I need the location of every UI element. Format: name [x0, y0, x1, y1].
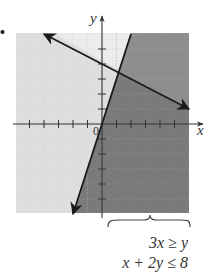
brace [108, 215, 190, 227]
inequality-2: x + 2y ≤ 8 [121, 254, 188, 272]
inequality-1: 3x ≥ y [148, 234, 189, 252]
inequality-graph: y x 0 3x ≥ y x + 2y ≤ 8 [0, 0, 210, 274]
y-axis-label: y [88, 10, 97, 26]
bullet-icon [1, 30, 5, 34]
origin-label: 0 [93, 124, 99, 138]
x-axis-label: x [196, 122, 204, 138]
